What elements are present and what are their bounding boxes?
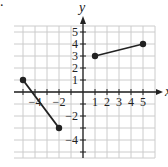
closed-endpoint-dot: [92, 53, 98, 59]
y-axis-arrow-icon: [80, 16, 86, 24]
closed-endpoint-dot: [20, 77, 26, 83]
y-axis-label: y: [77, 0, 86, 15]
piecewise-graph: −4−21234554321−2−4xy: [0, 0, 168, 167]
x-tick-label: 3: [116, 95, 122, 109]
x-tick-label: 2: [104, 95, 110, 109]
x-tick-label: 4: [128, 95, 134, 109]
y-tick-label: −2: [65, 109, 78, 123]
x-axis-arrow-icon: [156, 89, 163, 95]
x-axis-label: x: [164, 84, 168, 99]
axes: [14, 16, 163, 158]
y-tick-label: −4: [65, 133, 78, 147]
x-tick-label: −2: [53, 95, 66, 109]
x-tick-label: 1: [92, 95, 98, 109]
tick-labels: −4−21234554321−2−4xy: [29, 0, 168, 147]
closed-endpoint-dot: [56, 125, 62, 131]
y-tick-label: 1: [72, 73, 78, 87]
x-tick-label: 5: [140, 95, 146, 109]
closed-endpoint-dot: [140, 41, 146, 47]
